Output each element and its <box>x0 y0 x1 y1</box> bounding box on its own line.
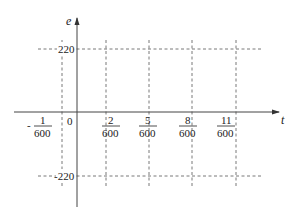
x-axis-label: t <box>281 113 285 127</box>
x-tick-5-600: 5 600 <box>139 114 157 139</box>
x-tick-11-600: 11 600 <box>217 114 235 139</box>
origin-label: 0 <box>67 115 73 127</box>
x-tick-num: 8 <box>185 114 191 126</box>
waveform-chart: e t 220 -220 0 - 1 600 2 600 5 600 8 600… <box>0 0 292 221</box>
y-axis-label: e <box>66 14 72 28</box>
x-tick-num: 11 <box>221 114 232 126</box>
x-tick-num: 1 <box>40 114 46 126</box>
y-tick-neg220: -220 <box>54 170 75 182</box>
y-tick-220: 220 <box>58 43 75 55</box>
vertical-gridlines <box>62 40 236 186</box>
x-tick-neg1-600: - 1 600 <box>27 114 52 139</box>
x-tick-den: 600 <box>217 127 234 139</box>
x-tick-8-600: 8 600 <box>179 114 197 139</box>
x-tick-2-600: 2 600 <box>102 114 120 139</box>
x-tick-den: 600 <box>102 127 119 139</box>
x-tick-sign: - <box>27 119 31 131</box>
x-tick-den: 600 <box>179 127 196 139</box>
x-tick-num: 2 <box>108 114 114 126</box>
x-tick-den: 600 <box>34 127 51 139</box>
x-tick-den: 600 <box>139 127 156 139</box>
x-tick-num: 5 <box>145 114 151 126</box>
